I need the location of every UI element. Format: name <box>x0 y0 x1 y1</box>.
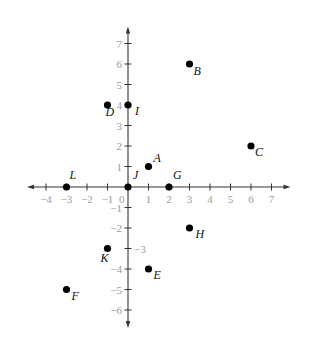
point-marker <box>247 142 254 149</box>
x-tick-label: 2 <box>166 193 172 205</box>
y-tick-label: −4 <box>110 263 122 275</box>
point-marker <box>124 101 131 108</box>
point-i: I <box>124 101 140 118</box>
y-tick-label: 6 <box>117 58 123 70</box>
y-tick-label: −6 <box>110 304 122 316</box>
point-label: A <box>153 151 162 165</box>
point-label: H <box>195 227 206 241</box>
x-axis-right-arrow-icon <box>284 185 291 189</box>
x-tick-label: 1 <box>146 193 152 205</box>
x-tick-label: 6 <box>248 193 254 205</box>
y-axis-down-arrow-icon <box>126 321 130 328</box>
y-tick-label: 1 <box>117 161 123 173</box>
point-a: A <box>145 151 162 171</box>
x-tick-label: 4 <box>207 193 213 205</box>
point-label: G <box>173 168 182 182</box>
x-tick-label: −2 <box>81 193 93 205</box>
y-tick-label: 5 <box>117 79 123 91</box>
y-tick-label: −3 <box>134 243 146 255</box>
x-axis-left-arrow-icon <box>27 185 34 189</box>
point-marker <box>124 183 131 190</box>
point-label: B <box>194 64 202 78</box>
point-label: I <box>134 104 140 118</box>
y-tick-label: −2 <box>110 222 122 234</box>
point-marker <box>63 183 70 190</box>
axes: 0 <box>27 27 291 329</box>
point-label: E <box>153 268 162 282</box>
point-e: E <box>145 265 162 282</box>
y-tick-label: 7 <box>117 38 123 50</box>
point-label: D <box>105 105 115 119</box>
x-tick-label: 5 <box>228 193 234 205</box>
point-marker <box>145 163 152 170</box>
x-tick-label: −3 <box>61 193 73 205</box>
y-tick-label: −1 <box>110 202 122 214</box>
point-label: L <box>69 168 77 182</box>
point-k: K <box>100 245 112 265</box>
point-marker <box>165 183 172 190</box>
point-c: C <box>247 142 264 159</box>
point-marker <box>63 286 70 293</box>
point-label: F <box>71 289 80 303</box>
point-marker <box>186 60 193 67</box>
point-marker <box>186 224 193 231</box>
point-b: B <box>186 60 202 78</box>
point-label: K <box>100 251 110 265</box>
plotted-points: ABCDEFGHIJKL <box>63 60 264 302</box>
point-marker <box>145 265 152 272</box>
y-axis-up-arrow-icon <box>126 27 130 34</box>
y-tick-label: −5 <box>110 284 122 296</box>
point-h: H <box>186 224 206 241</box>
y-tick-label: 2 <box>117 140 123 152</box>
x-tick-label: −4 <box>40 193 52 205</box>
point-d: D <box>104 101 115 119</box>
x-tick-label: 3 <box>187 193 193 205</box>
y-tick-label: 4 <box>117 99 123 111</box>
y-tick-label: 3 <box>117 120 123 132</box>
x-tick-label: 7 <box>269 193 275 205</box>
coordinate-plane: 0 −4−3−2−11234567 −6−5−4−3−2−11234567 AB… <box>0 0 309 346</box>
point-label: J <box>133 168 139 182</box>
point-f: F <box>63 286 80 303</box>
point-label: C <box>255 145 264 159</box>
